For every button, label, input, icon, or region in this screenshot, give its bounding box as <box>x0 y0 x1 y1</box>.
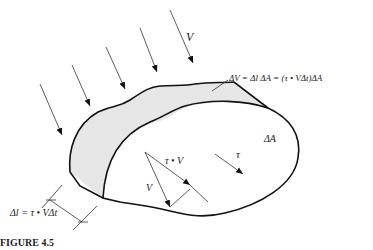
flux-volume-diagram: V ΔV = Δl ΔA = (τ • VΔt)ΔA ΔA τ τ • V V … <box>0 0 373 250</box>
tangent-label: τ <box>236 148 241 160</box>
length-equation-label: Δl = τ • VΔt <box>9 207 57 218</box>
area-label: ΔA <box>263 133 277 144</box>
swept-volume-region <box>70 82 268 198</box>
velocity-arrow-3 <box>106 47 125 89</box>
velocity-arrow-1 <box>40 84 62 135</box>
figure-caption: FIGURE 4.5 <box>0 237 54 248</box>
perpendicular-line <box>170 189 190 207</box>
projection-label: τ • V <box>165 155 185 166</box>
velocity-arrow-2 <box>72 65 90 106</box>
triangle-velocity-label: V <box>146 182 154 193</box>
dimension-tick-left <box>42 185 62 208</box>
flow-velocity-label: V <box>186 30 195 44</box>
velocity-arrow-4 <box>140 28 157 72</box>
volume-equation-label: ΔV = Δl ΔA = (τ • VΔt)ΔA <box>228 73 323 83</box>
projection-extension-line <box>190 185 208 202</box>
